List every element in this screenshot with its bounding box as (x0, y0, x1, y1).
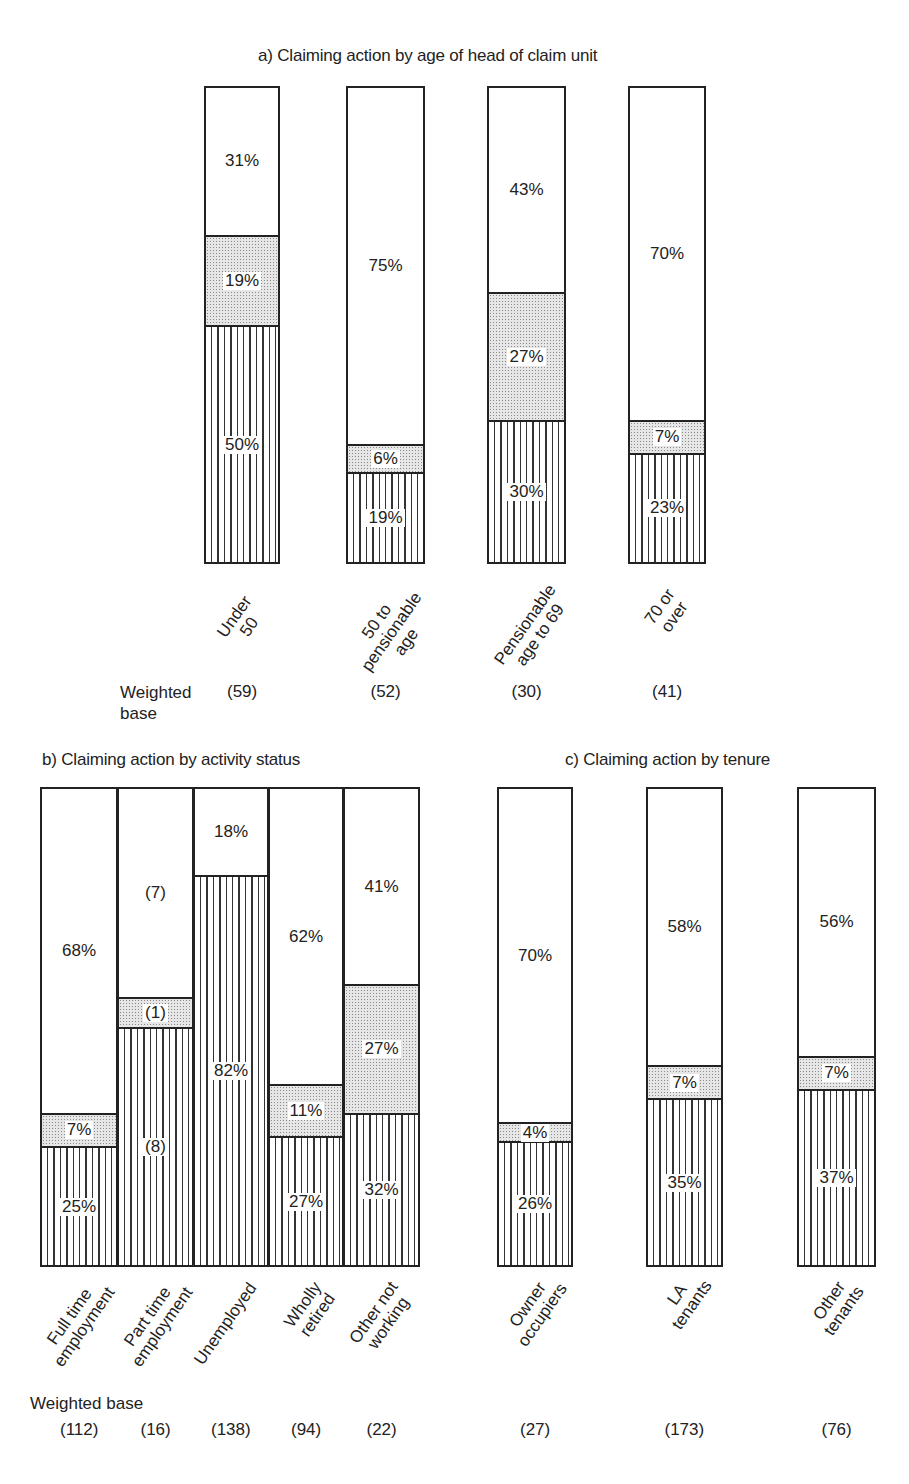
segment-value-label: 41% (362, 878, 400, 896)
segment-value-label: (8) (143, 1138, 168, 1156)
category-label: 70 or over (641, 586, 693, 638)
bar-segment-white: 31% (206, 88, 278, 235)
bar-segment-white: 56% (799, 789, 874, 1056)
weighted-base-value: (112) (60, 1420, 98, 1440)
segment-value-label: 19% (366, 509, 404, 527)
bar-segment-dotted: 27% (345, 984, 418, 1113)
stacked-bar: 82%18% (193, 787, 269, 1267)
bar-segment-hatched: 26% (499, 1141, 571, 1265)
segment-value-label: 62% (287, 928, 325, 946)
weighted-base-value: (76) (822, 1420, 852, 1440)
bar-segment-dotted: 19% (206, 235, 278, 325)
category-label: Wholly retired (281, 1279, 340, 1341)
segment-value-label: 6% (371, 450, 400, 468)
bar-segment-white: 70% (499, 789, 571, 1122)
segment-value-label: 19% (223, 272, 261, 290)
bar-segment-white: 70% (630, 88, 704, 420)
bar-segment-white: (7) (119, 789, 192, 997)
segment-value-label: 35% (665, 1174, 703, 1192)
category-label: Unemployed (190, 1280, 259, 1369)
segment-value-label: 27% (287, 1193, 325, 1211)
segment-value-label: 75% (366, 257, 404, 275)
bar-segment-dotted: 4% (499, 1122, 571, 1141)
segment-value-label: 31% (223, 152, 261, 170)
weighted-base-value: (52) (371, 682, 401, 702)
bar-segment-dotted: 6% (348, 444, 423, 472)
segment-value-label: (7) (143, 884, 168, 902)
bar-segment-dotted: 11% (270, 1084, 342, 1136)
bar-segment-dotted: 7% (630, 420, 704, 453)
weighted-base-value: (138) (211, 1420, 251, 1440)
category-label: Other not working (346, 1279, 416, 1358)
weighted-base-value: (173) (665, 1420, 705, 1440)
bar-segment-white: 62% (270, 789, 342, 1084)
chart-b-weighted-base-label: Weighted base (30, 1394, 143, 1414)
bar-segment-hatched: 50% (206, 325, 278, 562)
category-label: 50 to pensionable age (343, 579, 440, 685)
bar-segment-hatched: 19% (348, 472, 423, 562)
segment-value-label: 7% (653, 428, 682, 446)
category-label: Other tenants (806, 1273, 867, 1339)
segment-value-label: 70% (516, 947, 554, 965)
bar-segment-white: 58% (648, 789, 721, 1065)
stacked-bar: 19%6%75% (346, 86, 425, 564)
bar-segment-white: 43% (489, 88, 564, 292)
segment-value-label: 25% (60, 1198, 98, 1216)
weighted-base-value: (16) (141, 1420, 171, 1440)
category-label: Owner occupiers (499, 1270, 570, 1350)
bar-segment-hatched: 30% (489, 420, 564, 562)
weighted-base-value: (22) (367, 1420, 397, 1440)
segment-value-label: 23% (648, 499, 686, 517)
stacked-bar: 32%27%41% (343, 787, 420, 1267)
chart-b-title: b) Claiming action by activity status (42, 750, 300, 770)
stacked-bar: 35%7%58% (646, 787, 723, 1267)
category-label: Part time employment (114, 1274, 197, 1371)
stacked-bar: 25%7%68% (40, 787, 118, 1267)
segment-value-label: 68% (60, 942, 98, 960)
segment-value-label: 27% (507, 348, 545, 366)
weighted-base-value: (41) (652, 682, 682, 702)
segment-value-label: 26% (516, 1195, 554, 1213)
bar-segment-hatched: 23% (630, 453, 704, 562)
segment-value-label: 82% (212, 1062, 250, 1080)
segment-value-label: (1) (143, 1004, 168, 1022)
bar-segment-hatched: 27% (270, 1136, 342, 1265)
bar-segment-dotted: (1) (119, 997, 192, 1027)
weighted-base-value: (94) (291, 1420, 321, 1440)
stacked-bar: 23%7%70% (628, 86, 706, 564)
stacked-bar: 50%19%31% (204, 86, 280, 564)
segment-value-label: 58% (665, 918, 703, 936)
bar-segment-hatched: 35% (648, 1098, 721, 1265)
weighted-base-value: (27) (520, 1420, 550, 1440)
bar-segment-hatched: 32% (345, 1113, 418, 1265)
bar-segment-dotted: 27% (489, 292, 564, 420)
segment-value-label: 7% (670, 1074, 699, 1092)
bar-segment-white: 41% (345, 789, 418, 984)
bar-segment-hatched: 37% (799, 1089, 874, 1265)
weighted-base-value: (59) (227, 682, 257, 702)
category-label: Pensionable age to 69 (491, 581, 574, 678)
bar-segment-dotted: 7% (648, 1065, 721, 1098)
segment-value-label: 30% (507, 483, 545, 501)
segment-value-label: 27% (362, 1040, 400, 1058)
segment-value-label: 7% (822, 1064, 851, 1082)
bar-segment-white: 68% (42, 789, 116, 1113)
bar-segment-dotted: 7% (42, 1113, 116, 1146)
stacked-bar: (8)(1)(7) (117, 787, 194, 1267)
segment-value-label: 37% (817, 1169, 855, 1187)
category-label: Under 50 (214, 593, 270, 652)
stacked-bar: 27%11%62% (268, 787, 344, 1267)
chart-a-title: a) Claiming action by age of head of cla… (258, 46, 597, 66)
segment-value-label: 43% (507, 181, 545, 199)
stacked-bar: 37%7%56% (797, 787, 876, 1267)
stacked-bar: 26%4%70% (497, 787, 573, 1267)
segment-value-label: 70% (648, 245, 686, 263)
weighted-base-value: (30) (512, 682, 542, 702)
bar-segment-hatched: 25% (42, 1146, 116, 1265)
category-label: Full time employment (36, 1274, 119, 1371)
chart-a-weighted-base-label: Weighted base (120, 682, 192, 724)
segment-value-label: 18% (212, 823, 250, 841)
bar-segment-dotted: 7% (799, 1056, 874, 1089)
chart-c-title: c) Claiming action by tenure (565, 750, 770, 770)
stacked-bar: 30%27%43% (487, 86, 566, 564)
